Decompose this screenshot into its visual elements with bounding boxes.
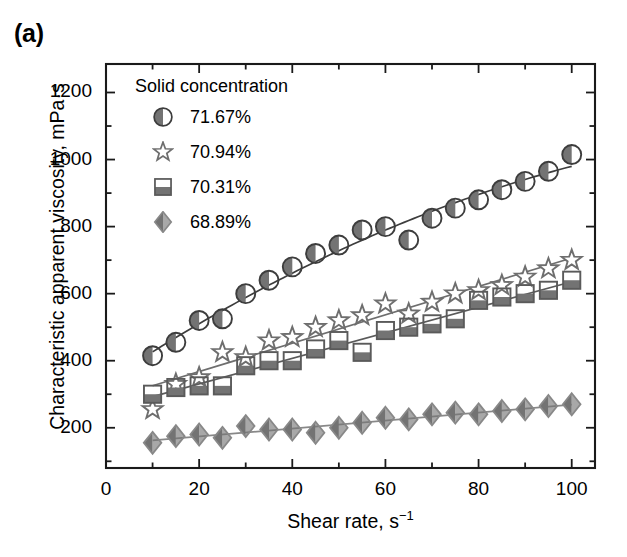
series-70.31%: [144, 272, 580, 403]
marker-fill-right: [246, 415, 255, 437]
data-point-open-star: [306, 317, 326, 336]
marker-fill-right: [525, 398, 534, 420]
marker-fill-left: [540, 395, 549, 417]
marker-fill-right: [199, 423, 208, 445]
data-point-bottom-filled-square: [260, 352, 277, 369]
data-point-half-filled-circle: [446, 199, 465, 218]
data-point-left-filled-diamond: [446, 402, 464, 424]
marker-fill-left: [516, 398, 525, 420]
marker-fill-right: [153, 432, 162, 454]
data-point-left-filled-diamond: [307, 422, 325, 444]
data-point-half-filled-circle: [562, 145, 581, 164]
data-point-half-filled-circle: [166, 333, 185, 352]
data-point-left-filled-diamond: [190, 423, 208, 445]
marker-fill-right: [222, 427, 231, 449]
data-point-half-filled-circle: [516, 172, 535, 191]
marker-fill-right: [432, 403, 441, 425]
marker-fill-left: [470, 403, 479, 425]
data-point-half-filled-circle: [306, 244, 325, 263]
data-point-left-filled-diamond: [144, 432, 162, 454]
marker-fill: [447, 319, 464, 328]
marker-fill: [423, 209, 432, 228]
marker-fill-right: [502, 400, 511, 422]
data-point-half-filled-circle: [213, 309, 232, 328]
marker-fill: [306, 244, 316, 263]
marker-fill: [237, 366, 254, 375]
marker-fill-left: [400, 408, 409, 430]
marker-fill: [260, 271, 270, 290]
marker-fill: [492, 180, 502, 199]
data-point-bottom-filled-square: [517, 285, 534, 302]
marker-fill-left: [353, 412, 362, 434]
marker-fill: [377, 331, 394, 340]
data-point-half-filled-circle: [469, 190, 488, 209]
marker-fill-right: [548, 395, 557, 417]
marker-fill: [260, 361, 277, 370]
data-point-half-filled-circle: [399, 231, 418, 250]
data-point-bottom-filled-square: [144, 386, 161, 403]
data-point-left-filled-diamond: [167, 425, 185, 447]
data-point-half-filled-circle: [283, 257, 302, 276]
marker-fill: [563, 280, 580, 289]
marker-fill-right: [292, 418, 301, 440]
data-point-bottom-filled-square: [354, 344, 371, 361]
series-71.67%: [143, 145, 581, 365]
figure-panel-a: (a) Characteristic apparent viscosity, m…: [0, 0, 627, 557]
data-point-left-filled-diamond: [540, 395, 558, 417]
data-point-left-filled-diamond: [260, 418, 278, 440]
marker-fill-left: [423, 403, 432, 425]
marker-fill: [283, 257, 293, 276]
marker-fill-right: [176, 425, 185, 447]
marker-fill: [353, 220, 363, 239]
marker-fill: [517, 294, 534, 303]
marker-fill: [423, 324, 440, 333]
data-point-open-star: [212, 342, 232, 361]
data-point-left-filled-diamond: [330, 417, 348, 439]
marker-outline: [259, 330, 279, 349]
data-point-open-star: [259, 330, 279, 349]
marker-fill-left: [260, 418, 269, 440]
marker-fill-left: [307, 422, 316, 444]
data-point-open-star: [538, 258, 558, 277]
marker-fill: [214, 386, 231, 395]
marker-fill-right: [362, 412, 371, 434]
marker-fill: [540, 290, 557, 299]
marker-outline: [422, 292, 442, 311]
marker-fill-left: [330, 417, 339, 439]
marker-fill-right: [269, 418, 278, 440]
marker-fill: [400, 327, 417, 336]
data-point-open-star: [375, 293, 395, 312]
data-point-half-filled-circle: [329, 236, 348, 255]
marker-outline: [538, 258, 558, 277]
marker-fill-left: [563, 393, 572, 415]
data-point-left-filled-diamond: [353, 412, 371, 434]
marker-fill: [469, 190, 479, 209]
data-point-bottom-filled-square: [307, 340, 324, 357]
marker-fill: [330, 341, 347, 350]
marker-fill-left: [377, 407, 386, 429]
marker-fill-right: [385, 407, 394, 429]
marker-fill: [329, 236, 339, 255]
marker-fill-left: [190, 423, 199, 445]
data-point-bottom-filled-square: [540, 282, 557, 299]
marker-fill: [493, 297, 510, 306]
marker-fill: [167, 388, 184, 397]
marker-fill: [354, 352, 371, 361]
data-point-left-filled-diamond: [283, 418, 301, 440]
data-point-open-star: [562, 250, 582, 269]
marker-outline: [375, 293, 395, 312]
series-68.89%: [144, 393, 581, 454]
marker-fill: [191, 386, 208, 395]
marker-fill: [539, 162, 549, 181]
marker-fill: [190, 311, 200, 330]
marker-fill: [562, 145, 571, 164]
data-point-left-filled-diamond: [516, 398, 534, 420]
data-point-half-filled-circle: [423, 209, 442, 228]
marker-fill-right: [572, 393, 581, 415]
marker-fill-right: [479, 403, 488, 425]
marker-fill-left: [283, 418, 292, 440]
marker-fill-left: [493, 400, 502, 422]
data-point-left-filled-diamond: [563, 393, 581, 415]
data-point-bottom-filled-square: [563, 272, 580, 289]
marker-outline: [562, 250, 582, 269]
